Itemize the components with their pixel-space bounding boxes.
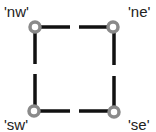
sw-handle-icon[interactable] bbox=[29, 106, 39, 116]
ne-handle-icon[interactable] bbox=[108, 22, 118, 32]
ne-label: 'ne' bbox=[128, 3, 151, 20]
nw-handle-icon[interactable] bbox=[30, 22, 40, 32]
se-handle-icon[interactable] bbox=[109, 107, 119, 117]
corner-diagram: 'nw' 'ne' 'sw' 'se' bbox=[0, 0, 156, 132]
se-label: 'se' bbox=[128, 116, 150, 132]
sw-label: 'sw' bbox=[4, 116, 28, 132]
nw-label: 'nw' bbox=[4, 3, 29, 20]
